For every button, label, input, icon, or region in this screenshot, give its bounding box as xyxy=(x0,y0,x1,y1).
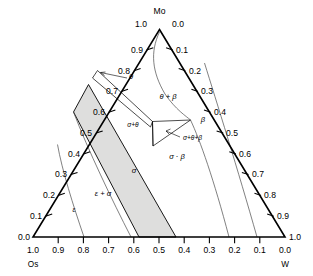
right-axis-label-5: 0.5 xyxy=(226,128,238,138)
phase-label-epsilon-sigma: ε + σ xyxy=(95,189,112,198)
phase-label-theta-beta: θ + β xyxy=(159,92,177,101)
phase-label-sigma-theta: σ+θ xyxy=(127,121,139,128)
phase-label-sigma: σ xyxy=(132,166,137,175)
left-axis-label-1: 0.1 xyxy=(30,211,42,221)
left-axis-label-3: 0.3 xyxy=(55,169,67,179)
bottom-right-element-label: W xyxy=(281,260,289,269)
bottom-axis-label-2: 0.8 xyxy=(77,245,89,255)
right-axis-label-6: 0.6 xyxy=(239,149,251,159)
bottom-axis-label-5: 0.5 xyxy=(153,245,165,255)
apex-element-label: Mo xyxy=(154,6,166,16)
right-axis-label-9: 0.9 xyxy=(277,211,289,221)
left-axis-label-6: 0.6 xyxy=(93,107,105,117)
left-axis-label-7: 0.7 xyxy=(106,86,118,96)
bottom-axis-label-4: 0.6 xyxy=(128,245,140,255)
bottom-axis-label-1: 0.9 xyxy=(52,245,64,255)
left-axis-label-5: 0.5 xyxy=(80,128,92,138)
right-axis-label-4: 0.4 xyxy=(214,107,226,117)
left-axis-label-9: 0.9 xyxy=(131,45,143,55)
three-phase-leader-tick xyxy=(166,129,171,134)
left-axis-label-4: 0.4 xyxy=(68,149,80,159)
right-axis-label-1: 0.1 xyxy=(176,45,188,55)
right-axis-label-10: 1.0 xyxy=(289,232,301,242)
apex-right-value: 0.0 xyxy=(172,19,184,29)
ternary-phase-diagram: Mo 1.0 0.0 0.0 0.1 0.2 0.3 0.4 0.5 0.6 0… xyxy=(0,0,313,276)
right-axis-labels: 0.1 0.2 0.3 0.4 0.5 0.6 0.7 0.8 0.9 1.0 xyxy=(176,45,301,242)
bottom-axis-label-7: 0.3 xyxy=(203,245,215,255)
bottom-left-element-label: Os xyxy=(28,260,38,269)
left-axis-labels: 0.0 0.1 0.2 0.3 0.4 0.5 0.6 0.7 0.8 0.9 xyxy=(18,45,143,242)
left-axis-label-2: 0.2 xyxy=(43,190,55,200)
left-axis-label-0: 0.0 xyxy=(18,232,30,242)
phase-label-beta: β xyxy=(200,115,206,124)
bottom-axis-labels: 1.0 0.9 0.8 0.7 0.6 0.5 0.4 0.3 0.2 0.1 … xyxy=(27,245,291,255)
tie-triangle xyxy=(153,120,191,146)
bottom-axis-label-10: 0.0 xyxy=(279,245,291,255)
bottom-axis-label-3: 0.7 xyxy=(103,245,115,255)
right-axis-label-3: 0.3 xyxy=(201,86,213,96)
triangle-outline xyxy=(33,30,285,238)
phase-label-sigma-theta-beta: σ+θ+β xyxy=(183,134,202,142)
bottom-axis-label-9: 0.1 xyxy=(254,245,266,255)
phase-label-sigma-beta: σ · β xyxy=(169,152,185,161)
right-axis-label-7: 0.7 xyxy=(252,169,264,179)
phase-label-epsilon: ε xyxy=(73,206,76,213)
right-axis-label-2: 0.2 xyxy=(189,66,201,76)
right-axis-label-8: 0.8 xyxy=(264,190,276,200)
bottom-axis-ticks xyxy=(58,237,260,243)
bottom-axis-label-8: 0.2 xyxy=(229,245,241,255)
bottom-axis-label-6: 0.4 xyxy=(178,245,190,255)
apex-left-value: 1.0 xyxy=(135,19,147,29)
tie-line-sigma-theta xyxy=(153,122,154,147)
sigma-phase-band xyxy=(74,85,177,238)
diagram-canvas: Mo 1.0 0.0 0.0 0.1 0.2 0.3 0.4 0.5 0.6 0… xyxy=(0,0,313,276)
bottom-axis-label-0: 1.0 xyxy=(27,245,39,255)
